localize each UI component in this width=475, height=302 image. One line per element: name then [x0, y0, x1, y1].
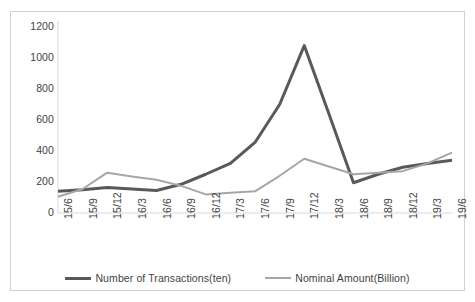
y-axis-tick-label: 600 — [14, 114, 54, 125]
x-axis-tick-label: 16/6 — [161, 198, 173, 219]
legend-item-nominal-amount[interactable]: Nominal Amount(Billion) — [265, 272, 409, 284]
y-axis-tick-label: 200 — [14, 176, 54, 187]
y-axis-tick-label: 1000 — [14, 52, 54, 63]
chart-plot-svg — [0, 0, 475, 302]
x-axis-tick-label: 16/9 — [185, 198, 197, 219]
x-axis-tick-label: 18/6 — [358, 198, 370, 219]
x-axis-tick-label: 17/6 — [259, 198, 271, 219]
legend-item-label: Number of Transactions(ten) — [95, 272, 231, 284]
x-axis-tick-label: 17/3 — [234, 198, 246, 219]
legend-item-number-of-transactions[interactable]: Number of Transactions(ten) — [65, 272, 231, 284]
x-axis-tick-label: 18/12 — [407, 192, 419, 219]
legend-line-swatch-icon — [65, 277, 91, 280]
x-axis-tick-label: 18/3 — [333, 198, 345, 219]
x-axis-tick-label: 19/3 — [431, 198, 443, 219]
series-line-0 — [58, 46, 452, 192]
x-axis-tick-label: 18/9 — [382, 198, 394, 219]
y-axis-tick-label: 400 — [14, 145, 54, 156]
y-axis-tick-label: 1200 — [14, 21, 54, 32]
chart-legend: Number of Transactions(ten) Nominal Amou… — [0, 268, 475, 288]
x-axis-tick-label: 15/6 — [62, 198, 74, 219]
legend-item-label: Nominal Amount(Billion) — [295, 272, 409, 284]
chart-container: 020040060080010001200 15/615/915/1216/31… — [0, 0, 475, 302]
x-axis-tick-label: 19/6 — [456, 198, 468, 219]
series-line-1 — [58, 153, 452, 197]
x-axis-tick-label: 16/12 — [210, 192, 222, 219]
x-axis-tick-label: 15/12 — [111, 192, 123, 219]
x-axis-tick-label: 16/3 — [136, 198, 148, 219]
y-axis-tick-label: 800 — [14, 83, 54, 94]
x-axis-tick-label: 17/9 — [284, 198, 296, 219]
legend-line-swatch-icon — [265, 277, 291, 279]
y-axis-tick-label: 0 — [14, 207, 54, 218]
x-axis-tick-label: 15/9 — [87, 198, 99, 219]
plot-area: 020040060080010001200 15/615/915/1216/31… — [0, 0, 475, 302]
x-axis-tick-label: 17/12 — [308, 192, 320, 219]
